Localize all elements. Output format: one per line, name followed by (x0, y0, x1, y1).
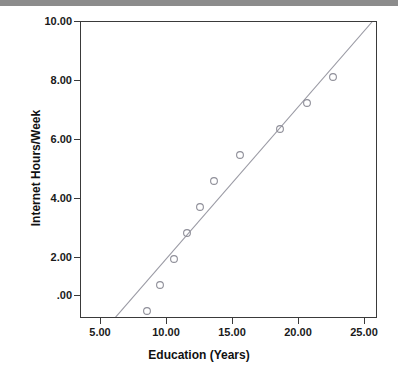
chart-canvas: Internet Hours/Week 10.00 8.00 6.00 4.00… (0, 6, 398, 374)
x-tick-label-25: 25.00 (350, 326, 378, 338)
regression-line (114, 22, 372, 318)
y-tick-label-0: .00 (57, 289, 72, 301)
y-tick-label-10: 10.00 (44, 15, 72, 27)
y-tick-label-4: 4.00 (51, 192, 72, 204)
data-point (157, 282, 164, 289)
scatter-plot-figure: Internet Hours/Week 10.00 8.00 6.00 4.00… (0, 0, 398, 374)
x-tick-label-20: 20.00 (284, 326, 312, 338)
plot-svg (81, 22, 377, 318)
data-point (197, 204, 204, 211)
data-point (144, 308, 151, 315)
x-tick-mark-10 (166, 318, 167, 324)
x-tick-mark-5 (100, 318, 101, 324)
x-axis-title: Education (Years) (0, 348, 398, 362)
x-tick-mark-15 (232, 318, 233, 324)
y-tick-label-6: 6.00 (51, 133, 72, 145)
data-point (237, 152, 244, 159)
x-tick-mark-25 (364, 318, 365, 324)
data-point (171, 256, 178, 263)
x-tick-label-10: 10.00 (152, 326, 180, 338)
y-axis-tick-labels: 10.00 8.00 6.00 4.00 2.00 .00 (0, 6, 72, 374)
data-point (277, 126, 284, 133)
plot-frame (80, 21, 377, 318)
x-tick-label-5: 5.00 (89, 326, 110, 338)
y-tick-label-2: 2.00 (51, 251, 72, 263)
data-point (304, 100, 311, 107)
data-point (330, 74, 337, 81)
data-point (211, 178, 218, 185)
x-tick-label-15: 15.00 (218, 326, 246, 338)
x-tick-mark-20 (298, 318, 299, 324)
y-tick-label-8: 8.00 (51, 74, 72, 86)
